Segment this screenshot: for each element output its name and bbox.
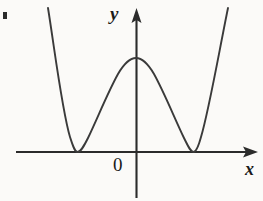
quartic-curve xyxy=(48,8,228,152)
x-axis-label: x xyxy=(245,160,254,178)
graph-canvas xyxy=(0,0,263,201)
origin-label: 0 xyxy=(113,155,123,174)
y-axis-label: y xyxy=(110,4,118,23)
quartic-function-graph: y x 0 xyxy=(0,0,263,201)
scan-speck-icon xyxy=(3,12,7,19)
